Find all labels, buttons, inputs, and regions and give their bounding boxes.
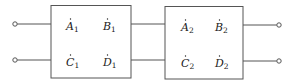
svg-text:B2: B2 — [214, 21, 228, 35]
svg-text:C1: C1 — [66, 56, 79, 70]
svg-text:D2: D2 — [214, 57, 229, 71]
param-C2: C2 — [181, 55, 194, 71]
two-port-cascade-diagram: A1 B1 C1 D1 A2 B2 C2 D2 — [0, 0, 292, 84]
svg-text:B1: B1 — [102, 20, 116, 34]
input-terminal-bottom — [13, 58, 17, 62]
param-D1: D1 — [102, 54, 117, 70]
param-C1: C1 — [66, 54, 79, 70]
svg-text:A1: A1 — [65, 20, 79, 34]
svg-text:C2: C2 — [181, 57, 194, 71]
param-D2: D2 — [214, 55, 229, 71]
network-1-box — [51, 6, 131, 79]
param-A2: A2 — [180, 19, 194, 35]
svg-text:D1: D1 — [102, 56, 117, 70]
network-1-params: A1 B1 C1 D1 — [65, 18, 117, 70]
output-terminal-top — [277, 23, 281, 27]
network-2-box — [165, 7, 243, 80]
param-B1: B1 — [102, 18, 116, 34]
svg-text:A2: A2 — [180, 21, 194, 35]
network-2-params: A2 B2 C2 D2 — [180, 19, 229, 71]
param-B2: B2 — [214, 19, 228, 35]
output-terminal-bottom — [277, 59, 281, 63]
param-A1: A1 — [65, 18, 79, 34]
input-terminal-top — [13, 22, 17, 26]
